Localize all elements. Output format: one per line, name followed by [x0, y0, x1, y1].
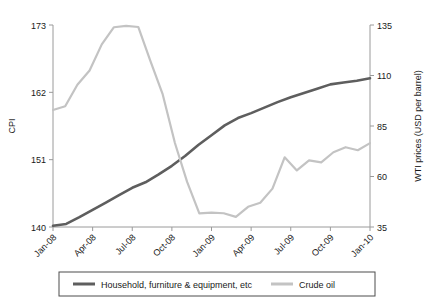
left-axis-title: CPI — [7, 118, 17, 133]
line-chart-canvas: 140151162173CPI356085110135WTI prices (U… — [0, 0, 431, 307]
left-axis-tick-label: 173 — [31, 21, 46, 31]
data-series-group — [53, 26, 370, 226]
x-axis-tick-label: Apr-08 — [72, 232, 98, 258]
axes-group — [49, 25, 374, 231]
x-axis-tick-label: Apr-09 — [230, 232, 256, 258]
x-axis-tick-label: Jul-09 — [272, 232, 296, 256]
right-axis-tick-label: 110 — [377, 71, 391, 81]
right-axis-tick-label: 85 — [377, 122, 387, 132]
right-axis-tick-label: 35 — [377, 223, 387, 233]
x-axis-tick-label: Jul-08 — [113, 232, 137, 256]
x-axis-tick-label: Oct-09 — [310, 232, 336, 258]
series-line-household — [53, 78, 370, 226]
x-axis-tick-label: Jan-08 — [32, 232, 59, 259]
left-axis-tick-label: 151 — [31, 155, 46, 165]
x-axis-tick-label: Jan-10 — [349, 232, 376, 259]
right-axis-title: WTI prices (USD per barrel) — [413, 70, 423, 182]
right-axis-tick-label: 135 — [377, 21, 392, 31]
chart-legend: Household, furniture & equipment, etcCru… — [59, 272, 375, 296]
right-axis-tick-label: 60 — [377, 172, 387, 182]
left-axis-tick-label: 162 — [31, 88, 46, 98]
x-axis-tick-label: Jan-09 — [190, 232, 217, 259]
series-line-crude-oil — [53, 26, 370, 217]
chart-figure: 140151162173CPI356085110135WTI prices (U… — [0, 0, 431, 307]
legend-label-crude-oil: Crude oil — [299, 280, 335, 290]
legend-label-household: Household, furniture & equipment, etc — [101, 280, 253, 290]
x-axis-tick-label: Oct-08 — [151, 232, 177, 258]
left-axis-tick-label: 140 — [31, 223, 46, 233]
